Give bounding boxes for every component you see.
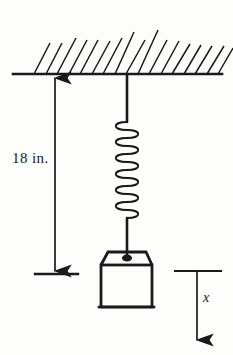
equilibrium-dimension xyxy=(35,78,78,274)
dimension-label: 18 in. xyxy=(12,151,49,166)
block-body xyxy=(101,265,152,307)
helical-spring xyxy=(116,75,139,258)
spring-attachment-knob xyxy=(122,254,132,261)
ceiling-hatching xyxy=(34,30,233,74)
displacement-axis xyxy=(175,271,221,340)
displacement-axis-label: x xyxy=(203,291,209,305)
suspended-mass-block xyxy=(99,252,154,307)
figure-canvas: 18 in. x xyxy=(0,0,233,355)
spring-mass-diagram-svg xyxy=(0,0,233,355)
spring-coils xyxy=(116,122,139,218)
ceiling-support xyxy=(13,30,233,74)
